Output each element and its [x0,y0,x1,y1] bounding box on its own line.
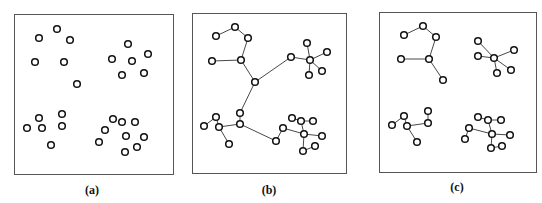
panel-a-node [122,149,129,156]
panel-b-edge [240,124,276,141]
panel-c-node [414,139,421,146]
panel-b-node [280,125,287,132]
panel-b-node [288,54,295,61]
panel-c-node [507,132,514,139]
panel-c-node [420,23,427,30]
panel-b-node [307,57,314,64]
panel-a-node [39,125,46,132]
panel-b-label: (b) [262,183,277,197]
panel-b-node [201,123,208,130]
panel-b-node [238,57,245,64]
panel-a-node [141,70,148,77]
panel-b-node [245,35,252,42]
panel-b-node [319,68,326,75]
panel-b-node [213,33,220,40]
panel-c-node [404,123,411,130]
panel-b-node [312,143,319,150]
panel-b-node [319,133,326,140]
panel-a-node [24,125,31,132]
panel-c-node [508,67,515,74]
panel-a-node [119,119,126,126]
panel-a-node [59,111,66,118]
panel-b-node [300,148,307,155]
panel-c-node [485,117,492,124]
panel-c-node [433,34,440,41]
panel-b-node [213,114,220,121]
panel-b-node [298,118,305,125]
panel-a-node [32,59,39,66]
panel-c-node [389,122,396,129]
panel-b-node [232,24,239,31]
panel-c-node [425,120,432,127]
panel-c-node [488,145,495,152]
panel-b-node [252,79,259,86]
panel-c-node [425,108,432,115]
panel-b-edge [240,82,255,113]
panel-b-node [304,40,311,47]
panel-b-node [209,58,216,65]
panel-a-node [125,41,132,48]
panel-c-node [491,55,498,62]
panel-a-node [119,72,126,79]
panel-c-node [499,143,506,150]
panel-a-node [129,58,136,65]
panel-c-node [462,136,469,143]
panel-a-node [132,119,139,126]
panel-c-node [498,117,505,124]
panel-c-label: (c) [450,180,463,194]
panel-c-node [511,47,518,54]
panel-b-node [301,131,308,138]
panel-c-node [475,38,482,45]
panel-a-node [102,127,109,134]
panel-a-node [61,59,68,66]
panel-b-node [216,124,223,131]
panel-c-node [489,131,496,138]
panel-a-node [109,56,116,63]
panel-c-node [494,70,501,77]
panel-a-node [36,35,43,42]
panel-c-node [401,113,408,120]
panel-c-node [466,125,473,132]
panel-b-node [289,115,296,122]
panel-c-node [475,114,482,121]
panel-a-node [141,134,148,141]
panel-a-node [54,26,61,33]
panel-b-node [310,118,317,125]
panel-a-node [59,123,66,130]
panel-b-edge [255,57,291,82]
panel-c-node [475,53,482,60]
panel-b-node [237,110,244,117]
panel-a-node [36,115,43,122]
panel-a-node [48,142,55,149]
panel-a-label: (a) [85,183,99,197]
panel-a-node [74,81,81,88]
panel-c-node [401,32,408,39]
panel-c-node [426,56,433,63]
panel-b-node [226,141,233,148]
panel-b-node [273,138,280,145]
panel-a-node [123,133,130,140]
panel-a-node [67,37,74,44]
panel-a-node [145,51,152,58]
panel-b-node [237,121,244,128]
panel-c-node [440,77,447,84]
clustering-figure: (a) (b) (c) [0,0,542,203]
panel-b-edge [212,60,241,61]
panel-a-node [134,144,141,151]
panel-b-node [324,49,331,56]
panel-a-node [110,116,117,123]
panel-b-node [306,72,313,79]
panel-c-node [398,56,405,63]
panel-a-node [96,139,103,146]
